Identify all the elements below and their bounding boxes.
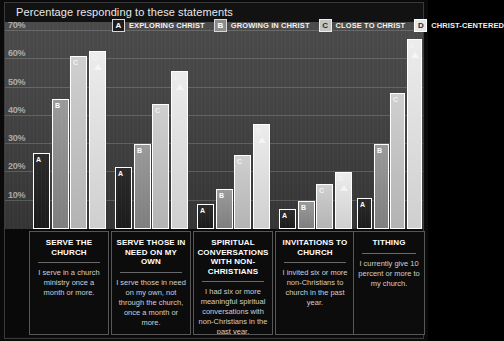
bar-label: A — [200, 207, 205, 215]
caption-card-3: SPIRITUAL CONVERSATIONS WITH NON-CHRISTI… — [193, 231, 273, 335]
legend-key-b: B — [214, 19, 227, 32]
caption-divider — [362, 253, 416, 254]
bar-a-group-4: A — [279, 209, 296, 229]
caption-divider — [120, 272, 182, 273]
bar-c-group-5: C — [390, 93, 405, 229]
bar-label: D — [174, 74, 179, 82]
legend-label: CLOSE TO CHRIST — [336, 21, 406, 30]
y-axis-tick-40: 40% — [8, 105, 25, 115]
bar-group-3: ABCD — [197, 22, 271, 229]
caption-card-5: TITHINGI currently give 10 percent or mo… — [353, 231, 425, 335]
bar-label: C — [73, 59, 78, 67]
bar-label: A — [282, 212, 287, 220]
caption-card-1: SERVE THE CHURCHI serve in a church mini… — [29, 231, 109, 335]
bar-b-group-3: B — [216, 189, 233, 229]
caption-card-2: SERVE THOSE IN NEED ON MY OWNI serve tho… — [111, 231, 191, 335]
bar-d-group-3: D — [253, 124, 270, 229]
y-axis-tick-30: 30% — [8, 133, 25, 143]
bar-d-group-5: D — [407, 39, 422, 229]
bar-label: A — [360, 201, 365, 209]
bar-d-group-1: D — [89, 51, 106, 229]
bar-b-group-1: B — [52, 99, 69, 229]
bar-a-group-5: A — [357, 198, 372, 229]
up-arrow-icon — [411, 52, 419, 58]
bar-label: C — [155, 107, 160, 115]
bar-label: B — [137, 147, 142, 155]
legend-key-c: C — [319, 19, 332, 32]
up-arrow-icon — [340, 185, 348, 191]
legend-label: EXPLORING CHRIST — [129, 21, 205, 30]
legend-key-d: D — [414, 19, 427, 32]
bar-label: D — [338, 175, 343, 183]
legend-label: CHRIST-CENTERED — [431, 21, 504, 30]
bar-label: A — [36, 156, 41, 164]
y-axis-tick-50: 50% — [8, 77, 25, 87]
bar-c-group-2: C — [152, 104, 169, 229]
caption-body: I had six or more meaningful spiritual c… — [194, 287, 272, 335]
bar-label: B — [301, 204, 306, 212]
bar-b-group-4: B — [298, 201, 315, 229]
bar-label: A — [118, 170, 123, 178]
legend-item-b: BGROWING IN CHRIST — [214, 19, 310, 32]
bar-label: B — [219, 192, 224, 200]
bar-c-group-1: C — [70, 56, 87, 229]
up-arrow-icon — [176, 84, 184, 90]
caption-heading: SPIRITUAL CONVERSATIONS WITH NON-CHRISTI… — [194, 232, 272, 281]
caption-divider — [38, 262, 100, 263]
bar-c-group-3: C — [234, 155, 251, 229]
bar-label: B — [55, 102, 60, 110]
bar-label: D — [92, 54, 97, 62]
chart-legend: AEXPLORING CHRISTBGROWING IN CHRISTCCLOS… — [112, 19, 504, 32]
legend-label: GROWING IN CHRIST — [231, 21, 310, 30]
caption-strip: SERVE THE CHURCHI serve in a church mini… — [5, 229, 423, 337]
bar-label: C — [393, 96, 398, 104]
caption-divider — [284, 262, 346, 263]
up-arrow-icon — [94, 64, 102, 70]
bar-label: C — [319, 187, 324, 195]
caption-card-4: INVITATIONS TO CHURCHI invited six or mo… — [275, 231, 355, 335]
bar-label: C — [237, 158, 242, 166]
bar-c-group-4: C — [316, 184, 333, 229]
bar-d-group-4: D — [335, 172, 352, 229]
bar-group-1: ABCD — [33, 22, 107, 229]
caption-body: I serve in a church ministry once a mont… — [30, 268, 108, 298]
bar-a-group-3: A — [197, 204, 214, 229]
bar-group-4: ABCD — [279, 22, 353, 229]
bar-a-group-2: A — [115, 167, 132, 229]
bar-group-2: ABCD — [115, 22, 189, 229]
bar-d-group-2: D — [171, 71, 188, 229]
legend-item-d: DCHRIST-CENTERED — [414, 19, 504, 32]
legend-key-a: A — [112, 19, 125, 32]
y-axis-tick-60: 60% — [8, 48, 25, 58]
bar-label: D — [256, 127, 261, 135]
caption-body: I serve those in need on my own, not thr… — [112, 278, 190, 328]
caption-heading: INVITATIONS TO CHURCH — [276, 232, 354, 262]
y-axis-tick-10: 10% — [8, 190, 25, 200]
y-axis-tick-20: 20% — [8, 161, 25, 171]
page-title: Percentage responding to these statement… — [16, 6, 233, 18]
bar-b-group-5: B — [374, 144, 389, 229]
caption-body: I invited six or more non-Christians to … — [276, 268, 354, 308]
legend-item-c: CCLOSE TO CHRIST — [319, 19, 406, 32]
caption-heading: SERVE THOSE IN NEED ON MY OWN — [112, 232, 190, 272]
bar-label: B — [377, 147, 382, 155]
bar-b-group-2: B — [134, 144, 151, 229]
plot-area: 70%60%50%40%30%20%10%ABCDABCDABCDABCDABC… — [5, 22, 423, 229]
legend-item-a: AEXPLORING CHRIST — [112, 19, 205, 32]
caption-body: I currently give 10 percent or more to m… — [354, 259, 424, 289]
caption-heading: SERVE THE CHURCH — [30, 232, 108, 262]
caption-divider — [202, 281, 264, 282]
up-arrow-icon — [258, 137, 266, 143]
y-axis-tick-70: 70% — [8, 22, 25, 30]
bar-group-5: ABCD — [357, 22, 423, 229]
bar-label: D — [410, 42, 415, 50]
caption-heading: TITHING — [354, 232, 424, 253]
bar-a-group-1: A — [33, 153, 50, 229]
